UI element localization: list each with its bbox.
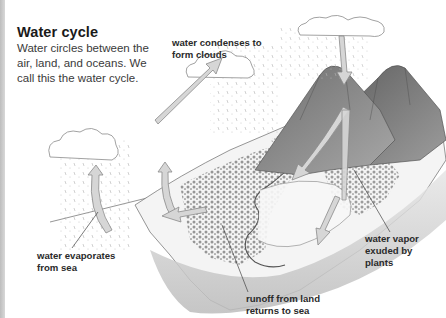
label-line: water evaporates: [37, 250, 115, 262]
label-transpiration: water vapor exuded by plants: [365, 233, 419, 269]
label-line: runoff from land: [246, 293, 320, 305]
label-line: plants: [365, 257, 419, 269]
label-line: from sea: [37, 262, 115, 274]
label-evaporation: water evaporates from sea: [37, 250, 115, 274]
cloud-left: [49, 128, 119, 160]
label-condensation: water condenses to form clouds: [172, 37, 262, 61]
label-runoff: runoff from land returns to sea: [246, 293, 320, 317]
label-line: water condenses to: [172, 37, 262, 49]
cloud-top: [298, 15, 384, 36]
label-line: exuded by: [365, 245, 419, 257]
label-line: returns to sea: [246, 305, 320, 317]
label-line: form clouds: [172, 49, 262, 61]
page-title: Water cycle: [17, 24, 98, 40]
label-line: water vapor: [365, 233, 419, 245]
intro-text: Water circles between the air, land, and…: [17, 41, 152, 85]
